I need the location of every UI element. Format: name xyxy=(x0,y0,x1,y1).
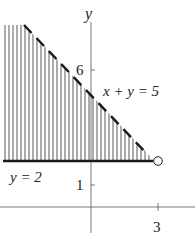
tick-label-y6: 6 xyxy=(76,62,84,78)
solid-line-label: y = 2 xyxy=(8,169,42,185)
dashed-line-label: x + y = 5 xyxy=(102,83,160,99)
tick-label-y1: 1 xyxy=(76,177,84,193)
graph-canvas: y 6 1 3 x + y = 5 y = 2 xyxy=(0,0,195,233)
open-circle-vertex xyxy=(154,157,163,166)
tick-label-x3: 3 xyxy=(153,219,161,233)
y-axis-label: y xyxy=(83,5,93,23)
